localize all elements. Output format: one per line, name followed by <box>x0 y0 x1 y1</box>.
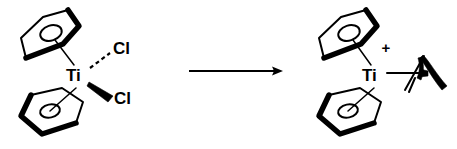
metal-label-ti-left: Ti <box>66 66 81 85</box>
cp-ring-top-right <box>319 10 377 58</box>
bond-wedge-to-chloride-lower <box>87 82 113 102</box>
alkene-coordination-wedge <box>419 69 428 77</box>
cp-ring-bottom-left <box>21 88 83 134</box>
atom-label-chloride-upper: Cl <box>113 39 130 58</box>
bond-hashed-to-chloride-upper <box>90 53 110 68</box>
charge-label-plus: + <box>382 39 391 56</box>
product-structure: Ti + <box>319 10 447 134</box>
reactant-structure: Ti Cl Cl <box>21 10 131 134</box>
cp-ring-bottom-right <box>319 88 381 134</box>
metal-label-ti-right: Ti <box>362 66 377 85</box>
cp-ring-top-left <box>21 10 79 58</box>
reaction-scheme-figure: Ti Cl Cl <box>0 0 457 149</box>
reaction-arrow <box>189 67 283 76</box>
atom-label-chloride-lower: Cl <box>114 89 131 108</box>
scheme-canvas: Ti Cl Cl <box>0 0 457 149</box>
